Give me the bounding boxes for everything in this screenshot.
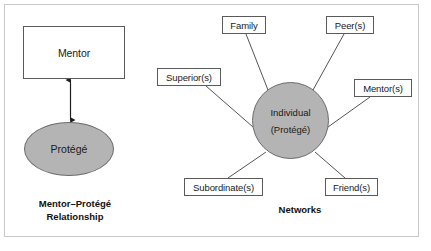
individual-hub-circle: Individual (Protégé) — [252, 82, 329, 159]
network-node-mentors: Mentor(s) — [354, 79, 412, 97]
mentor-protege-caption: Mentor–Protégé Relationship — [14, 198, 136, 224]
network-node-superiors: Superior(s) — [157, 68, 221, 86]
network-node-peers: Peer(s) — [326, 16, 374, 34]
network-node-label: Mentor(s) — [363, 83, 403, 94]
connector-friends — [315, 152, 345, 178]
protege-label: Protégé — [51, 143, 88, 155]
caption-line-1: Networks — [240, 204, 360, 217]
mentor-label: Mentor — [58, 47, 90, 59]
connector-superiors — [206, 86, 253, 127]
network-node-label: Subordinate(s) — [193, 182, 254, 193]
connector-mentors — [328, 97, 370, 127]
network-node-label: Family — [230, 20, 257, 31]
caption-line-2: Relationship — [14, 211, 136, 224]
hub-label-line-2: (Protégé) — [271, 124, 311, 135]
protege-ellipse: Protégé — [24, 122, 114, 176]
connector-peers — [313, 34, 344, 90]
hub-label-line-1: Individual — [270, 107, 310, 118]
network-node-label: Peer(s) — [335, 20, 365, 31]
caption-line-1: Mentor–Protégé — [14, 198, 136, 211]
connector-subordinates — [228, 152, 266, 178]
network-node-subordinates: Subordinate(s) — [184, 178, 263, 196]
figure-root: Mentor Protégé Mentor–Protégé Relationsh… — [0, 0, 431, 251]
networks-caption: Networks — [240, 204, 360, 217]
mentor-box: Mentor — [23, 26, 125, 79]
network-node-friends: Friend(s) — [325, 178, 378, 196]
network-node-family: Family — [222, 16, 266, 34]
network-node-label: Friend(s) — [333, 182, 370, 193]
network-node-label: Superior(s) — [166, 72, 212, 83]
connector-family — [246, 34, 268, 90]
